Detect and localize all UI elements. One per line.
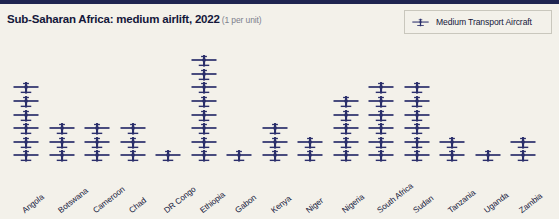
pictogram-unit — [368, 109, 394, 123]
pictogram-unit — [368, 81, 394, 95]
pictogram-unit — [333, 109, 359, 123]
x-axis-tick-label: Cameroon — [91, 185, 126, 215]
pictogram-unit — [333, 149, 359, 163]
pictogram-unit — [262, 149, 288, 163]
pictogram-unit — [13, 109, 39, 123]
x-axis-tick-label: Tanzania — [446, 188, 477, 215]
pictogram-stack — [293, 136, 327, 163]
pictogram-unit — [368, 95, 394, 109]
pictogram-unit — [262, 122, 288, 136]
pictogram-unit — [120, 122, 146, 136]
pictogram-unit — [191, 122, 217, 136]
pictogram-unit — [13, 136, 39, 150]
pictogram-unit — [191, 68, 217, 82]
pictogram-unit — [333, 122, 359, 136]
pictogram-stack — [400, 81, 434, 163]
x-axis-tick-label: Gabon — [233, 193, 258, 215]
pictogram-unit — [120, 149, 146, 163]
pictogram-unit — [120, 136, 146, 150]
pictogram-unit — [49, 149, 75, 163]
x-axis-tick-label: Angola — [20, 193, 45, 215]
pictogram-stack — [329, 95, 363, 163]
pictogram-stack — [471, 149, 505, 163]
pictogram-stack — [258, 122, 292, 163]
pictogram-stack — [9, 81, 43, 163]
x-axis-tick-label: South Africa — [375, 181, 414, 215]
pictogram-unit — [13, 149, 39, 163]
pictogram-unit — [297, 136, 323, 150]
pictogram-unit — [191, 136, 217, 150]
x-axis-tick-label: Uganda — [482, 191, 510, 215]
plot-area: AngolaBotswanaCameroonChadDR CongoEthiop… — [0, 0, 559, 219]
pictogram-unit — [49, 122, 75, 136]
pictogram-stack — [45, 122, 79, 163]
x-axis-tick-label: Nigeria — [340, 192, 365, 215]
pictogram-unit — [510, 136, 536, 150]
x-axis-tick-label: Sudan — [411, 194, 435, 215]
pictogram-unit — [191, 95, 217, 109]
pictogram-stack — [187, 54, 221, 163]
pictogram-unit — [191, 149, 217, 163]
pictogram-unit — [439, 149, 465, 163]
pictogram-unit — [191, 109, 217, 123]
x-axis-tick-label: Ethiopia — [198, 190, 226, 215]
pictogram-unit — [84, 136, 110, 150]
pictogram-unit — [404, 95, 430, 109]
pictogram-unit — [404, 149, 430, 163]
x-axis-tick-label: Botswana — [56, 186, 89, 215]
pictogram-unit — [226, 149, 252, 163]
pictogram-unit — [368, 136, 394, 150]
pictogram-stack — [151, 149, 185, 163]
pictogram-stack — [435, 136, 469, 163]
pictogram-unit — [155, 149, 181, 163]
pictogram-unit — [13, 122, 39, 136]
pictogram-unit — [475, 149, 501, 163]
pictogram-unit — [49, 136, 75, 150]
pictogram-unit — [297, 149, 323, 163]
pictogram-chart: Sub-Saharan Africa: medium airlift, 2022… — [0, 0, 559, 219]
pictogram-stack — [506, 136, 540, 163]
pictogram-unit — [333, 136, 359, 150]
x-axis-tick-label: Niger — [304, 196, 325, 215]
pictogram-stack — [80, 122, 114, 163]
pictogram-unit — [510, 149, 536, 163]
pictogram-stack — [364, 81, 398, 163]
pictogram-unit — [191, 54, 217, 68]
pictogram-unit — [13, 81, 39, 95]
pictogram-unit — [84, 149, 110, 163]
pictogram-unit — [404, 136, 430, 150]
pictogram-unit — [84, 122, 110, 136]
pictogram-unit — [368, 122, 394, 136]
pictogram-unit — [262, 136, 288, 150]
x-axis-tick-label: Zambia — [517, 191, 544, 215]
pictogram-unit — [191, 81, 217, 95]
pictogram-unit — [13, 95, 39, 109]
pictogram-stack — [222, 149, 256, 163]
x-axis-tick-label: Chad — [127, 196, 148, 215]
pictogram-unit — [404, 81, 430, 95]
pictogram-unit — [404, 122, 430, 136]
x-axis-tick-label: DR Congo — [162, 185, 197, 215]
pictogram-unit — [368, 149, 394, 163]
pictogram-unit — [333, 95, 359, 109]
x-axis-tick-label: Kenya — [269, 194, 292, 215]
pictogram-stack — [116, 122, 150, 163]
pictogram-unit — [404, 109, 430, 123]
pictogram-unit — [439, 136, 465, 150]
